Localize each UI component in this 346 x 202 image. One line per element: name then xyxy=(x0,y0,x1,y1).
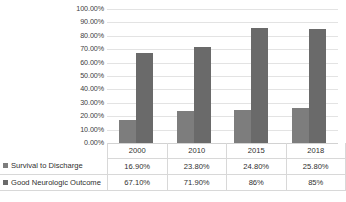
data-table-body: 2000201020152018Survival to Discharge16.… xyxy=(0,143,346,191)
legend-swatch-icon xyxy=(3,180,8,185)
table-cell-value: 16.90% xyxy=(108,159,168,175)
bar-group xyxy=(165,9,223,143)
table-cell-value: 24.80% xyxy=(227,159,287,175)
table-cell-value: 67.10% xyxy=(108,175,168,191)
table-category-header: 2010 xyxy=(167,143,227,159)
bar xyxy=(292,108,309,143)
y-axis-tick-label: 50.00% xyxy=(58,72,104,79)
legend-label: Good Neurologic Outcome xyxy=(11,178,101,187)
table-corner-cell xyxy=(0,143,108,159)
y-axis-tick-labels: 100.00%90.00%80.00%70.00%60.00%50.00%40.… xyxy=(58,9,104,143)
bar-chart: 100.00%90.00%80.00%70.00%60.00%50.00%40.… xyxy=(0,0,346,202)
bar xyxy=(234,110,251,143)
bars-container xyxy=(107,9,338,143)
bar-group xyxy=(223,9,281,143)
y-axis-tick-label: 80.00% xyxy=(58,32,104,39)
legend-entry: Good Neurologic Outcome xyxy=(0,175,108,191)
bar xyxy=(119,120,136,143)
chart-data-table: 2000201020152018Survival to Discharge16.… xyxy=(0,143,346,191)
table-row-categories: 2000201020152018 xyxy=(0,143,346,159)
table-row: Good Neurologic Outcome67.10%71.90%86%85… xyxy=(0,175,346,191)
y-axis-tick-label: 20.00% xyxy=(58,113,104,120)
y-axis-tick-label: 100.00% xyxy=(58,5,104,12)
y-axis-tick-label: 40.00% xyxy=(58,86,104,93)
table-cell-value: 86% xyxy=(227,175,287,191)
legend-swatch-icon xyxy=(3,163,8,168)
table-row: Survival to Discharge16.90%23.80%24.80%2… xyxy=(0,159,346,175)
table-cell-value: 25.80% xyxy=(286,159,346,175)
bar xyxy=(251,28,268,143)
bar xyxy=(309,29,326,143)
table-category-header: 2015 xyxy=(227,143,287,159)
table-cell-value: 23.80% xyxy=(167,159,227,175)
y-axis-tick-label: 60.00% xyxy=(58,59,104,66)
plot-area: 100.00%90.00%80.00%70.00%60.00%50.00%40.… xyxy=(0,0,346,152)
table-category-header: 2018 xyxy=(286,143,346,159)
y-axis-tick-label: 90.00% xyxy=(58,19,104,26)
legend-label: Survival to Discharge xyxy=(11,161,83,170)
bar-group xyxy=(107,9,165,143)
bar xyxy=(136,53,153,143)
bar xyxy=(177,111,194,143)
table-category-header: 2000 xyxy=(108,143,168,159)
y-axis-tick-label: 70.00% xyxy=(58,46,104,53)
legend-entry: Survival to Discharge xyxy=(0,159,108,175)
y-axis-tick-label: 10.00% xyxy=(58,126,104,133)
bar-group xyxy=(280,9,338,143)
table-cell-value: 71.90% xyxy=(167,175,227,191)
bar xyxy=(194,47,211,143)
y-axis-tick-label: 30.00% xyxy=(58,99,104,106)
table-cell-value: 85% xyxy=(286,175,346,191)
